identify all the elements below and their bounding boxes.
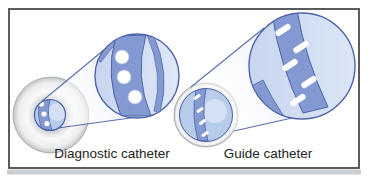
mini-braid-hole xyxy=(44,121,49,126)
mini-braid-hole xyxy=(41,111,46,116)
braid-hole xyxy=(117,70,131,84)
catheter-comparison-figure: Diagnostic catheter xyxy=(0,0,372,176)
lumen-highlight xyxy=(203,99,227,123)
diagnostic-catheter-label: Diagnostic catheter xyxy=(54,146,170,161)
guide-catheter-label: Guide catheter xyxy=(224,146,313,161)
diagram-canvas: Diagnostic catheter xyxy=(0,0,372,176)
photo-edge-strip xyxy=(7,170,361,175)
braid-hole xyxy=(128,90,142,104)
braid-hole xyxy=(115,50,129,64)
